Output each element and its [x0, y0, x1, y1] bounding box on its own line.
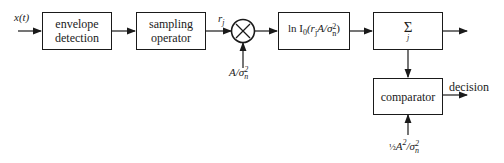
envelope-line2: detection	[55, 31, 99, 45]
input-label: x(t)	[14, 11, 29, 23]
multiplier-input-label: A/σ2n	[229, 66, 248, 80]
envelope-detection-block: envelope detection	[42, 12, 112, 50]
sampling-line1: sampling	[149, 17, 193, 31]
log-bessel-block: ln I0(rjA/σ2n)	[278, 12, 350, 50]
log-bessel-expression: ln I0(rjA/σ2n)	[288, 21, 340, 40]
sum-index: j	[407, 34, 409, 42]
sampling-line2: operator	[151, 31, 191, 45]
envelope-line1: envelope	[55, 17, 98, 31]
sigma-symbol: Σ	[404, 20, 413, 34]
summation-block: Σ j	[373, 12, 443, 50]
decision-label: decision	[449, 80, 489, 95]
sample-label: rj	[218, 12, 225, 27]
threshold-label: ½A2/σ2n	[389, 138, 419, 154]
comparator-label: comparator	[381, 90, 436, 104]
sampling-operator-block: sampling operator	[136, 12, 206, 50]
comparator-block: comparator	[373, 78, 443, 115]
